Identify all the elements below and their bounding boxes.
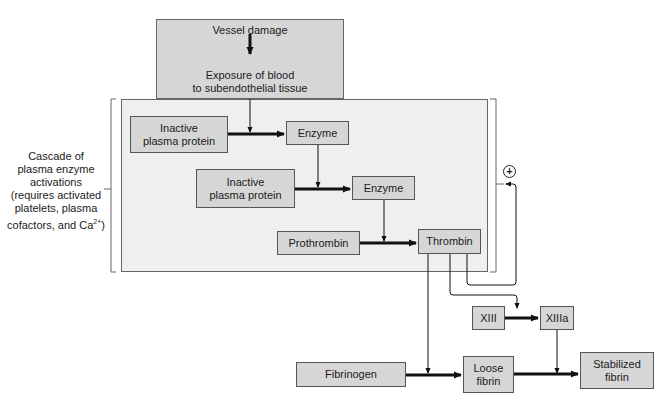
positive-feedback-icon: + bbox=[503, 165, 516, 178]
node-label: plasma protein bbox=[209, 189, 281, 202]
node-label: XIIIa bbox=[546, 312, 569, 325]
node-label: fibrin bbox=[474, 375, 504, 388]
stabilized-fibrin-box: Stabilizedfibrin bbox=[580, 352, 654, 389]
inactive-plasma-protein-2: Inactiveplasma protein bbox=[196, 169, 295, 208]
node-label: Loose bbox=[474, 362, 504, 375]
node-label: Stabilized bbox=[593, 358, 641, 371]
prothrombin-box: Prothrombin bbox=[277, 231, 360, 255]
fibrinogen-box: Fibrinogen bbox=[296, 362, 406, 387]
node-label: Inactive bbox=[143, 122, 215, 135]
node-label: XIII bbox=[480, 312, 497, 325]
node-label: Thrombin bbox=[426, 235, 472, 248]
factor-xiii-box: XIII bbox=[472, 306, 505, 330]
node-label: Inactive bbox=[209, 176, 281, 189]
loose-fibrin-box: Loosefibrin bbox=[463, 356, 514, 393]
node-label: Enzyme bbox=[298, 127, 338, 140]
thrombin-box: Thrombin bbox=[418, 229, 481, 254]
enzyme-1: Enzyme bbox=[286, 121, 349, 145]
node-label: Prothrombin bbox=[289, 237, 349, 250]
node-label: Enzyme bbox=[364, 182, 404, 195]
node-label: Fibrinogen bbox=[325, 368, 377, 381]
factor-xiiia-box: XIIIa bbox=[540, 306, 574, 330]
enzyme-2: Enzyme bbox=[352, 176, 415, 200]
inactive-plasma-protein-1: Inactiveplasma protein bbox=[130, 116, 228, 153]
node-label: plasma protein bbox=[143, 135, 215, 148]
connector-lines bbox=[0, 0, 667, 408]
node-label: fibrin bbox=[593, 371, 641, 384]
